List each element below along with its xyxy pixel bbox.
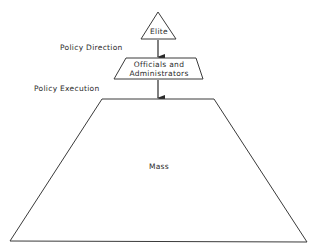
policy-execution-label: Policy Execution <box>34 85 100 93</box>
officials-label-line2: Administrators <box>129 70 188 78</box>
pyramid-diagram: Elite Officials and Administrators Mass … <box>0 0 317 251</box>
officials-label-line1: Officials and <box>134 61 184 69</box>
diagram-shapes <box>0 0 317 251</box>
elite-label: Elite <box>150 28 168 36</box>
policy-direction-label: Policy Direction <box>60 44 123 52</box>
mass-label: Mass <box>149 163 169 171</box>
